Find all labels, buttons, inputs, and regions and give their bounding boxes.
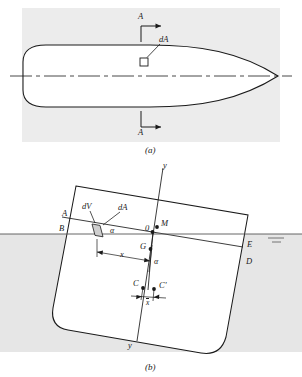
panel-b-group	[0, 168, 302, 353]
figure-canvas	[0, 0, 302, 377]
element-area-label-b: dA	[118, 203, 127, 212]
element-volume-label: dV	[82, 202, 91, 211]
metacentre-label: M	[161, 219, 168, 228]
section-label-top: A	[138, 12, 143, 21]
y-axis-label-top: y	[163, 161, 167, 170]
metacentre-point	[155, 225, 159, 229]
lever-arm-label: x	[120, 250, 124, 259]
element-square-icon	[140, 58, 148, 66]
y-axis-label-bottom: y	[128, 341, 132, 350]
waterline-left-lower-label: B	[59, 224, 64, 233]
heel-angle-axis-label: α	[154, 258, 158, 266]
origin-label: 0	[145, 224, 149, 233]
gravity-centre-point	[149, 247, 153, 251]
waterline-left-upper-label: A	[62, 209, 67, 218]
panel-b-caption: (b)	[145, 362, 156, 372]
waterline-right-lower-label: D	[246, 257, 252, 266]
origin-point	[151, 230, 155, 234]
waterline-right-upper-label: E	[247, 240, 252, 249]
buoyancy-centre-shifted-point	[152, 287, 156, 291]
heel-angle-water-label: α	[110, 227, 114, 235]
buoyancy-centre-label: C	[133, 279, 139, 288]
section-label-bottom: A	[138, 128, 143, 137]
shift-distance-label: x	[146, 299, 149, 307]
heeled-hull-outline	[53, 186, 248, 353]
buoyancy-centre-shifted-label: C'	[159, 281, 167, 290]
element-area-label-a: dA	[159, 35, 168, 44]
gravity-centre-label: G	[140, 242, 146, 251]
panel-a-caption: (a)	[145, 145, 156, 155]
buoyancy-centre-point	[141, 286, 145, 290]
figure-root: A A dA (a) y y A B E D dV dA α α 0 M G C…	[0, 0, 302, 377]
panel-a-group	[10, 8, 292, 142]
